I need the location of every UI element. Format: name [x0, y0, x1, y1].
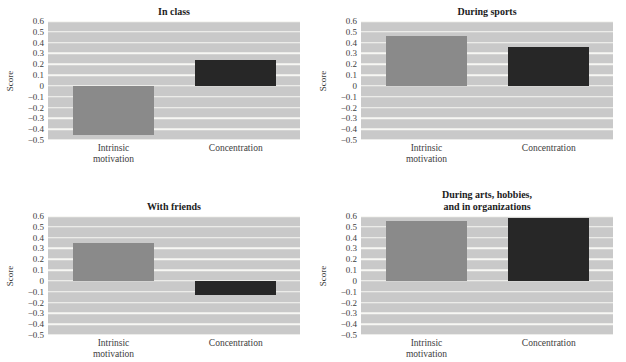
gridline — [361, 291, 613, 293]
gridline — [361, 313, 613, 315]
gridline — [361, 216, 613, 217]
y-tick-label: −0.1 — [28, 92, 44, 101]
y-axis-label-text: Score — [318, 265, 328, 286]
gridline — [48, 226, 300, 228]
chart-during-sports: During sports Score 0.60.50.40.30.20.10−… — [313, 0, 626, 181]
gridline — [48, 21, 300, 22]
chart-title: With friends — [48, 201, 300, 216]
y-axis-label-text: Score — [318, 70, 328, 91]
gridline — [361, 302, 613, 304]
y-tick-label: 0.6 — [346, 17, 357, 26]
y-tick-label: 0.5 — [33, 222, 44, 231]
y-tick-label: −0.5 — [341, 136, 357, 145]
y-tick-label: 0 — [40, 81, 45, 90]
gridline — [48, 42, 300, 44]
bar-concentration — [508, 218, 589, 281]
figure-grid: In class Score 0.60.50.40.30.20.10−0.1−0… — [0, 0, 626, 362]
y-tick-label: 0.5 — [33, 27, 44, 36]
y-tick-label: −0.4 — [28, 125, 44, 134]
x-tick-label: Concentration — [522, 338, 576, 349]
y-tick-label: 0.4 — [346, 233, 357, 242]
y-tick-label: 0.1 — [346, 266, 357, 275]
y-tick-label: 0.6 — [33, 212, 44, 221]
x-tick-label: Concentration — [209, 143, 263, 154]
y-tick-label: −0.2 — [28, 298, 44, 307]
y-tick-label: −0.5 — [341, 331, 357, 340]
gridline — [361, 96, 613, 98]
chart-arts-hobbies-organizations: During arts, hobbies, and in organizatio… — [313, 181, 626, 362]
y-tick-label: −0.4 — [28, 320, 44, 329]
y-tick-label: 0.6 — [33, 17, 44, 26]
y-axis-label: Score — [313, 216, 333, 335]
y-axis-ticks: 0.60.50.40.30.20.10−0.1−0.2−0.3−0.4−0.5 — [333, 216, 361, 335]
y-tick-label: 0.2 — [33, 255, 44, 264]
y-axis-ticks: 0.60.50.40.30.20.10−0.1−0.2−0.3−0.4−0.5 — [20, 216, 48, 335]
y-tick-label: −0.5 — [28, 136, 44, 145]
plot-area — [361, 216, 613, 335]
y-axis-label: Score — [0, 21, 20, 140]
y-tick-label: 0 — [353, 276, 358, 285]
bar-intrinsic-motivation — [386, 221, 467, 281]
y-tick-label: −0.3 — [341, 114, 357, 123]
y-tick-label: 0 — [40, 276, 45, 285]
y-tick-label: 0.3 — [346, 244, 357, 253]
y-tick-label: −0.1 — [28, 287, 44, 296]
x-axis-labels: Intrinsic motivationConcentration — [48, 335, 300, 362]
bar-intrinsic-motivation — [73, 86, 154, 135]
y-tick-label: 0.1 — [33, 266, 44, 275]
y-axis-ticks: 0.60.50.40.30.20.10−0.1−0.2−0.3−0.4−0.5 — [333, 21, 361, 140]
bar-concentration — [195, 281, 276, 295]
gridline — [48, 237, 300, 239]
y-tick-label: 0.4 — [33, 38, 44, 47]
y-tick-label: −0.2 — [28, 103, 44, 112]
gridline — [361, 107, 613, 109]
bar-intrinsic-motivation — [386, 36, 467, 86]
y-tick-label: 0.5 — [346, 222, 357, 231]
y-tick-label: 0.3 — [346, 49, 357, 58]
bar-concentration — [508, 47, 589, 86]
gridline — [48, 302, 300, 304]
y-tick-label: −0.1 — [341, 92, 357, 101]
chart-title: During arts, hobbies, and in organizatio… — [361, 189, 613, 216]
y-tick-label: 0.2 — [33, 60, 44, 69]
plot-area — [48, 21, 300, 140]
y-tick-label: −0.1 — [341, 287, 357, 296]
gridline — [48, 31, 300, 33]
y-axis-label: Score — [313, 21, 333, 140]
gridline — [361, 128, 613, 130]
chart-title: In class — [48, 6, 300, 21]
gridline — [361, 118, 613, 120]
x-tick-label: Intrinsic motivation — [406, 338, 447, 360]
y-tick-label: 0.3 — [33, 244, 44, 253]
chart-in-class: In class Score 0.60.50.40.30.20.10−0.1−0… — [0, 0, 313, 181]
y-tick-label: 0.3 — [33, 49, 44, 58]
y-tick-label: −0.3 — [341, 309, 357, 318]
y-axis-label-text: Score — [5, 265, 15, 286]
y-tick-label: 0.1 — [346, 71, 357, 80]
x-tick-label: Concentration — [522, 143, 576, 154]
x-axis-labels: Intrinsic motivationConcentration — [361, 140, 613, 181]
chart-with-friends: With friends Score 0.60.50.40.30.20.10−0… — [0, 181, 313, 362]
gridline — [361, 323, 613, 325]
y-tick-label: 0.2 — [346, 60, 357, 69]
bar-concentration — [195, 60, 276, 86]
y-tick-label: −0.5 — [28, 331, 44, 340]
y-tick-label: 0.5 — [346, 27, 357, 36]
y-axis-ticks: 0.60.50.40.30.20.10−0.1−0.2−0.3−0.4−0.5 — [20, 21, 48, 140]
x-tick-label: Concentration — [209, 338, 263, 349]
y-tick-label: −0.2 — [341, 103, 357, 112]
gridline — [361, 21, 613, 22]
x-tick-label: Intrinsic motivation — [406, 143, 447, 165]
gridline — [48, 53, 300, 55]
y-tick-label: 0.2 — [346, 255, 357, 264]
x-axis-labels: Intrinsic motivationConcentration — [48, 140, 300, 181]
y-tick-label: 0.6 — [346, 212, 357, 221]
y-tick-label: −0.3 — [28, 114, 44, 123]
x-axis-labels: Intrinsic motivationConcentration — [361, 335, 613, 362]
gridline — [48, 323, 300, 325]
gridline — [48, 216, 300, 217]
x-tick-label: Intrinsic motivation — [93, 338, 134, 360]
bar-intrinsic-motivation — [73, 243, 154, 281]
y-tick-label: −0.4 — [341, 125, 357, 134]
y-tick-label: 0 — [353, 81, 358, 90]
